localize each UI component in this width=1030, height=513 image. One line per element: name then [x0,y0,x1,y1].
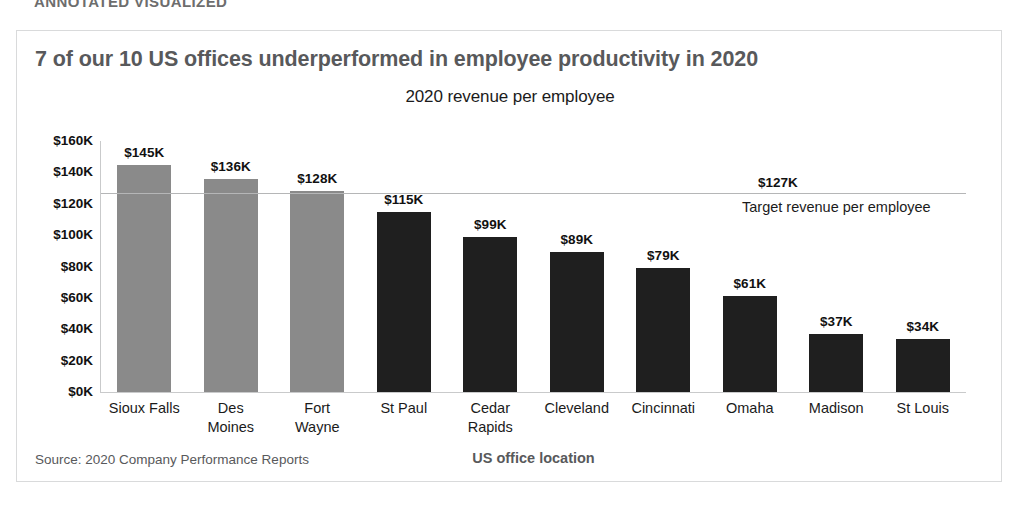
y-axis-tick-label: $0K [68,385,93,399]
x-axis-label-line: Fort [274,399,361,418]
x-axis-label-madison: Madison [793,399,880,418]
bar-slot: $136K [188,141,275,392]
x-axis-label-line: Cincinnati [620,399,707,418]
chart-card: 7 of our 10 US offices underperformed in… [16,30,1002,482]
y-axis-tick-label: $160K [53,134,93,148]
bar-value-label: $89K [561,232,593,247]
target-caption: Target revenue per employee [742,199,931,215]
x-axis-label-line: Sioux Falls [101,399,188,418]
bar-slot: $128K [274,141,361,392]
bar-st-louis[interactable] [896,339,950,392]
x-axis-label-sioux-falls: Sioux Falls [101,399,188,418]
bar-slot: $145K [101,141,188,392]
x-axis-label-line: Cedar [447,399,534,418]
target-value-label: $127K [758,175,798,190]
bar-value-label: $136K [211,159,251,174]
bar-cedar-rapids[interactable] [463,237,517,392]
y-axis-tick-labels: $160K$140K$120K$100K$80K$60K$40K$20K$0K [25,135,93,393]
x-axis-label-line: Des [188,399,275,418]
y-axis-tick-label: $80K [61,260,93,274]
chart-page: ANNOTATED VISUALIZED 7 of our 10 US offi… [0,0,1030,513]
y-axis-tick-label: $60K [61,291,93,305]
bar-cincinnati[interactable] [636,268,690,392]
x-axis-label-line: Omaha [707,399,794,418]
bar-value-label: $128K [297,171,337,186]
bar-value-label: $37K [820,314,852,329]
x-axis-label-st-louis: St Louis [880,399,967,418]
x-axis-label-line: Cleveland [534,399,621,418]
bar-slot: $34K [880,141,967,392]
bar-series: $145K$136K$128K$115K$99K$89K$79K$61K$37K… [101,141,966,392]
plot-area: $160K$140K$120K$100K$80K$60K$40K$20K$0K … [17,31,1003,483]
bar-value-label: $79K [647,248,679,263]
x-axis-line [100,392,966,393]
x-axis-label-cleveland: Cleveland [534,399,621,418]
bar-fort-wayne[interactable] [290,191,344,392]
bar-value-label: $145K [124,145,164,160]
bar-sioux-falls[interactable] [117,165,171,392]
source-note: Source: 2020 Company Performance Reports [35,452,309,467]
bar-cleveland[interactable] [550,252,604,392]
x-axis-label-cincinnati: Cincinnati [620,399,707,418]
x-axis-category-labels: Sioux FallsDesMoinesFortWayneSt PaulCeda… [101,399,966,447]
y-axis-tick-label: $40K [61,322,93,336]
bar-value-label: $34K [907,319,939,334]
x-axis-label-line: Moines [188,418,275,437]
bar-value-label: $115K [384,192,423,207]
y-axis-tick-label: $120K [53,197,93,211]
page-header-strip: ANNOTATED VISUALIZED [0,0,400,10]
x-axis-label-line: Wayne [274,418,361,437]
bar-slot: $79K [620,141,707,392]
y-axis-tick-label: $140K [53,165,93,179]
x-axis-label-st-paul: St Paul [361,399,448,418]
y-axis-tick-label: $20K [61,354,93,368]
bar-slot: $89K [534,141,621,392]
x-axis-label-line: St Paul [361,399,448,418]
bar-value-label: $61K [734,276,766,291]
bar-des-moines[interactable] [204,179,258,392]
y-axis-tick-label: $100K [53,228,93,242]
bar-st-paul[interactable] [377,212,431,392]
bar-slot: $99K [447,141,534,392]
x-axis-label-line: Madison [793,399,880,418]
x-axis-label-fort-wayne: FortWayne [274,399,361,437]
x-axis-label-line: Rapids [447,418,534,437]
x-axis-label-des-moines: DesMoines [188,399,275,437]
x-axis-label-line: St Louis [880,399,967,418]
x-axis-label-cedar-rapids: CedarRapids [447,399,534,437]
bar-value-label: $99K [474,217,506,232]
bar-slot: $115K [361,141,448,392]
target-reference-line [101,193,966,194]
x-axis-label-omaha: Omaha [707,399,794,418]
bar-omaha[interactable] [723,296,777,392]
bar-slot: $37K [793,141,880,392]
bar-madison[interactable] [809,334,863,392]
